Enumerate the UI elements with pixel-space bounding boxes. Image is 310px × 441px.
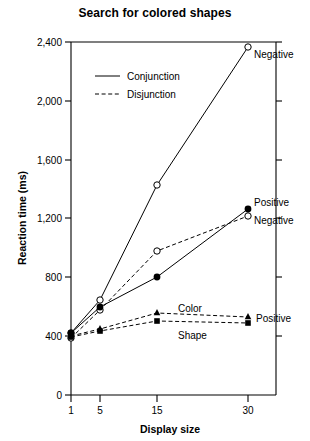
y-tick-label: 0 xyxy=(56,390,62,401)
figure-container: Search for colored shapes xyxy=(0,0,310,441)
x-axis-title: Display size xyxy=(140,423,200,435)
y-tick-label: 400 xyxy=(45,331,62,342)
series-conjunction-negative xyxy=(68,44,251,336)
annotation-conjunction-positive: Positive xyxy=(254,197,289,208)
line-chart-plot: 0 400 800 1,200 1,600 2,000 2,400 1 5 15… xyxy=(0,0,310,441)
y-axis-title: Reaction time (ms) xyxy=(16,171,28,265)
annotation-color: Color xyxy=(178,303,203,314)
series-shape xyxy=(68,318,251,340)
y-tick-labels: 0 400 800 1,200 1,600 2,000 2,400 xyxy=(37,37,62,401)
y-tick-label: 1,200 xyxy=(37,213,62,224)
y-tick-label: 2,400 xyxy=(37,37,62,48)
x-tick-label: 1 xyxy=(68,405,74,416)
annotation-conjunction-negative: Negative xyxy=(254,49,294,60)
y-tick-label: 800 xyxy=(45,272,62,283)
legend-label-conjunction: Conjunction xyxy=(127,71,180,82)
x-tick-labels: 1 5 15 30 xyxy=(68,405,254,416)
annotation-shape: Shape xyxy=(178,330,207,341)
y-axis-ticks-right xyxy=(276,42,282,336)
annotation-feature-positive: Positive xyxy=(256,313,291,324)
x-tick-label: 15 xyxy=(151,405,163,416)
y-tick-label: 2,000 xyxy=(37,96,62,107)
legend-label-disjunction: Disjunction xyxy=(127,89,176,100)
x-tick-label: 30 xyxy=(242,405,254,416)
annotation-disjunction-negative: Negative xyxy=(254,215,294,226)
legend: Conjunction Disjunction xyxy=(95,71,180,100)
y-tick-label: 1,600 xyxy=(37,155,62,166)
y-axis-ticks xyxy=(65,42,71,395)
x-axis-ticks xyxy=(71,395,248,402)
x-tick-label: 5 xyxy=(97,405,103,416)
